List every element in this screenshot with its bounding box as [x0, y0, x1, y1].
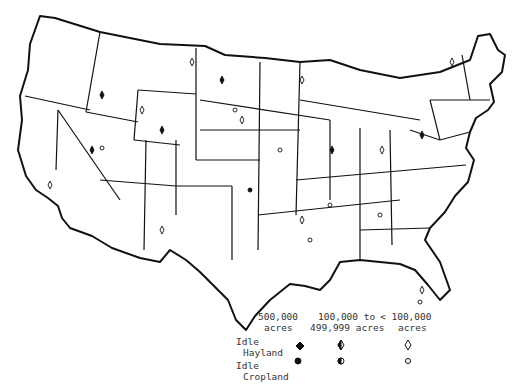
- open-diamond-icon: [405, 340, 411, 350]
- legend-row1-line1: Idle: [236, 336, 259, 347]
- legend-row2-line1: Idle: [236, 360, 259, 371]
- legend-col2-line2: 499,999 acres: [310, 322, 384, 333]
- solid-diamond-icon: [296, 342, 304, 350]
- solid-circle-icon: [295, 358, 301, 364]
- legend-col2-line1: 100,000 to: [318, 311, 375, 322]
- legend-col1-line1: 500,000: [258, 311, 298, 322]
- legend-col1-line2: acres: [264, 322, 293, 333]
- legend-row2-line2: Cropland: [243, 371, 289, 382]
- legend-symbols: [295, 340, 411, 364]
- legend-col3-line1: < 100,000: [380, 311, 431, 322]
- open-circle-icon: [406, 359, 411, 364]
- us-outline: [18, 16, 505, 330]
- legend-col3-line2: acres: [398, 322, 427, 333]
- legend-row1-line2: Hayland: [243, 347, 283, 358]
